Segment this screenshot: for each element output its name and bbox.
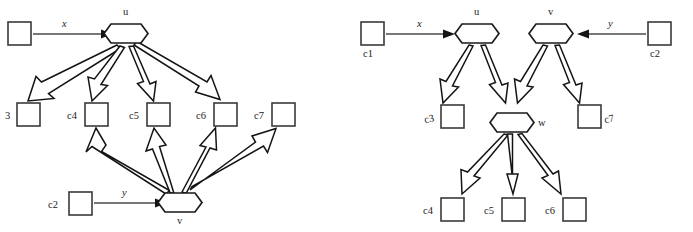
label-edge-y-right: y: [607, 18, 613, 29]
edge-x-right: [386, 30, 455, 39]
node-c3-right: [441, 105, 464, 128]
figure-canvas: u v x y 3 c4 c5 c6 c7 c2: [0, 0, 693, 232]
node-c4-right: [441, 198, 464, 221]
edge-y-right: [577, 30, 646, 39]
label-edge-x-right: x: [416, 18, 422, 29]
edge-u-to-w-right: [481, 45, 508, 103]
edge-v-to-c7-right: [555, 45, 582, 103]
label-c2-right: c2: [650, 48, 660, 59]
label-w-right: w: [538, 117, 546, 128]
node-c2-right: [648, 22, 671, 45]
node-c5-right: [502, 198, 525, 221]
label-c3-right: c3: [423, 112, 435, 125]
edge-v-to-w-right: [515, 45, 548, 103]
label-c5-right: c5: [484, 205, 494, 216]
edge-w-to-c6-right: [518, 134, 561, 195]
label-c6-right: c6: [545, 205, 555, 216]
edge-u-to-c3-right: [440, 45, 473, 103]
label-c1-right: c1: [363, 48, 373, 59]
node-c7-right: [578, 105, 601, 128]
edge-w-to-c5-right: [507, 134, 518, 194]
edge-w-to-c4-right: [461, 134, 508, 194]
label-c7-right: c7: [603, 112, 615, 125]
label-u-right: u: [474, 6, 480, 17]
node-c1-right: [361, 22, 384, 45]
label-c4-right: c4: [423, 205, 434, 216]
node-u-right: [455, 24, 499, 43]
right-graph-svg: u v w x y c1 c2 c3 c7 c4 c5 c6: [0, 0, 693, 232]
node-c6-right: [563, 198, 586, 221]
label-v-right: v: [548, 6, 554, 17]
node-v-right: [529, 24, 573, 43]
node-w-right: [490, 113, 534, 132]
